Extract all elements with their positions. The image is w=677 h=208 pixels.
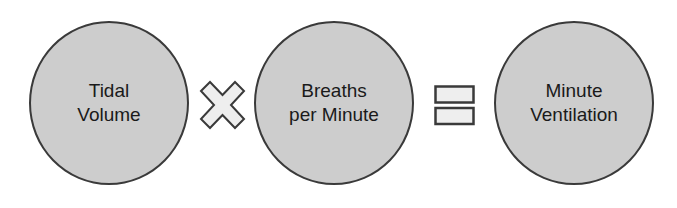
equals-icon — [434, 85, 476, 126]
tidal-volume-node: Tidal Volume — [29, 21, 189, 185]
breaths-per-minute-node: Breaths per Minute — [254, 21, 414, 185]
minute-ventilation-node: Minute Ventilation — [494, 21, 654, 185]
minute-ventilation-label: Minute Ventilation — [530, 79, 618, 127]
breaths-per-minute-label: Breaths per Minute — [289, 79, 379, 127]
multiply-icon — [199, 80, 246, 130]
tidal-volume-label: Tidal Volume — [77, 79, 140, 127]
